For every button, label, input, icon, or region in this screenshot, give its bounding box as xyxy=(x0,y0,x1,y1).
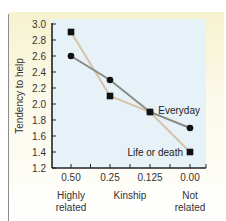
data-point-everyday xyxy=(68,53,75,60)
data-point-everyday xyxy=(107,77,114,84)
data-point-life-or-death xyxy=(187,149,194,156)
x-axis-title: Kinship xyxy=(114,190,147,201)
y-tick-label: 2.4 xyxy=(32,67,46,78)
y-tick-label: 2.0 xyxy=(32,99,46,110)
series-label-life-or-death: Life or death xyxy=(127,147,183,158)
data-point-everyday xyxy=(187,125,194,132)
data-point-life-or-death xyxy=(147,109,154,116)
y-tick-label: 1.4 xyxy=(32,147,46,158)
x-end-label-right-line2: related xyxy=(175,202,206,213)
x-end-label-left-line2: related xyxy=(56,202,87,213)
y-tick-label: 2.8 xyxy=(32,35,46,46)
x-tick-label: 0.25 xyxy=(100,172,120,183)
y-axis-title: Tendency to help xyxy=(14,58,25,134)
series-label-everyday: Everyday xyxy=(158,105,200,116)
y-tick-label: 1.6 xyxy=(32,131,46,142)
y-tick-label: 2.6 xyxy=(32,51,46,62)
x-end-label-left-line1: Highly xyxy=(57,190,85,201)
x-tick-label: 0.00 xyxy=(180,172,200,183)
figure-frame: 1.21.41.61.82.02.22.42.62.83.00.500.250.… xyxy=(0,0,226,221)
y-tick-label: 2.2 xyxy=(32,83,46,94)
x-end-label-right-line1: Not xyxy=(182,190,198,201)
y-tick-label: 1.8 xyxy=(32,115,46,126)
y-tick-label: 3.0 xyxy=(32,19,46,30)
data-point-life-or-death xyxy=(107,93,114,100)
x-tick-label: 0.50 xyxy=(61,172,81,183)
y-tick-label: 1.2 xyxy=(32,163,46,174)
chart: 1.21.41.61.82.02.22.42.62.83.00.500.250.… xyxy=(0,0,226,221)
x-tick-label: 0.125 xyxy=(137,172,162,183)
data-point-life-or-death xyxy=(68,29,75,36)
